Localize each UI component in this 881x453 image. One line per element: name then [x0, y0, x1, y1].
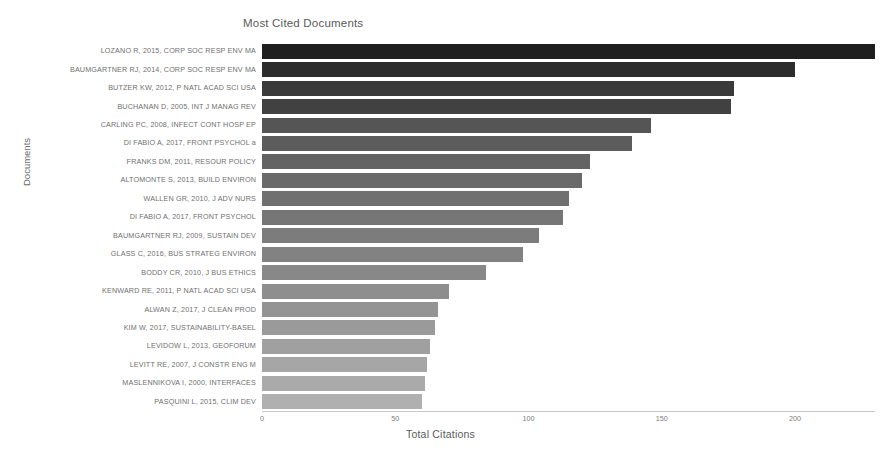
- bar-fill: [262, 394, 422, 409]
- bar[interactable]: [262, 302, 438, 317]
- y-tick-label: GLASS C, 2016, BUS STRATEG ENVIRON: [111, 249, 256, 258]
- bar[interactable]: [262, 173, 582, 188]
- x-axis-title: Total Citations: [0, 428, 881, 440]
- y-tick-label: PASQUINI L, 2015, CLIM DEV: [154, 397, 256, 406]
- bar-fill: [262, 302, 438, 317]
- y-tick-label: ALWAN Z, 2017, J CLEAN PROD: [145, 305, 257, 314]
- y-tick-label: KIM W, 2017, SUSTAINABILITY-BASEL: [124, 323, 256, 332]
- chart-title: Most Cited Documents: [243, 17, 363, 29]
- bar-fill: [262, 376, 425, 391]
- y-tick-label: MASLENNIKOVA I, 2000, INTERFACES: [122, 378, 256, 387]
- y-tick-label: BUTZER KW, 2012, P NATL ACAD SCI USA: [108, 83, 256, 92]
- y-tick-label: FRANKS DM, 2011, RESOUR POLICY: [127, 157, 256, 166]
- bar-fill: [262, 265, 486, 280]
- x-axis-line: [262, 411, 875, 412]
- bar[interactable]: [262, 81, 734, 96]
- bar[interactable]: [262, 44, 875, 59]
- y-tick-label: CARLING PC, 2008, INFECT CONT HOSP EP: [101, 120, 256, 129]
- bar[interactable]: [262, 394, 422, 409]
- y-tick-label: BAUMGARTNER RJ, 2009, SUSTAIN DEV: [113, 231, 256, 240]
- y-tick-label: BUCHANAN D, 2005, INT J MANAG REV: [117, 102, 256, 111]
- y-tick-label: BODDY CR, 2010, J BUS ETHICS: [141, 268, 256, 277]
- y-tick-label: BAUMGARTNER RJ, 2014, CORP SOC RESP ENV …: [70, 65, 256, 74]
- most-cited-documents-chart: Most Cited Documents Documents LOZANO R,…: [0, 0, 881, 453]
- bar[interactable]: [262, 99, 731, 114]
- bar-fill: [262, 284, 449, 299]
- bar-fill: [262, 320, 435, 335]
- bar-fill: [262, 228, 539, 243]
- bar-fill: [262, 173, 582, 188]
- y-axis-tick-labels: LOZANO R, 2015, CORP SOC RESP ENV MABAUM…: [0, 42, 256, 411]
- bar-fill: [262, 339, 430, 354]
- bar[interactable]: [262, 136, 632, 151]
- y-tick-label: LEVITT RE, 2007, J CONSTR ENG M: [130, 360, 256, 369]
- bar-fill: [262, 210, 563, 225]
- bar-fill: [262, 81, 734, 96]
- bar[interactable]: [262, 228, 539, 243]
- x-tick-label: 0: [260, 414, 264, 423]
- x-tick-label: 200: [789, 414, 801, 423]
- y-tick-label: LOZANO R, 2015, CORP SOC RESP ENV MA: [101, 46, 256, 55]
- y-tick-label: DI FABIO A, 2017, FRONT PSYCHOL a: [124, 138, 256, 147]
- y-tick-label: WALLEN GR, 2010, J ADV NURS: [144, 194, 256, 203]
- bar-fill: [262, 118, 651, 133]
- bar[interactable]: [262, 265, 486, 280]
- bar-fill: [262, 62, 795, 77]
- bar[interactable]: [262, 62, 795, 77]
- bar[interactable]: [262, 357, 427, 372]
- y-tick-label: LEVIDOW L, 2013, GEOFORUM: [147, 341, 256, 350]
- bar[interactable]: [262, 191, 569, 206]
- bar[interactable]: [262, 376, 425, 391]
- bar[interactable]: [262, 154, 590, 169]
- bar[interactable]: [262, 210, 563, 225]
- bar-fill: [262, 99, 731, 114]
- bar-fill: [262, 44, 875, 59]
- y-tick-label: DI FABIO A, 2017, FRONT PSYCHOL: [130, 212, 256, 221]
- bar-fill: [262, 357, 427, 372]
- bar-fill: [262, 191, 569, 206]
- bar-fill: [262, 136, 632, 151]
- bar[interactable]: [262, 118, 651, 133]
- y-tick-label: KENWARD RE, 2011, P NATL ACAD SCI USA: [102, 286, 256, 295]
- bar-fill: [262, 247, 523, 262]
- bar[interactable]: [262, 320, 435, 335]
- x-tick-label: 150: [656, 414, 668, 423]
- plot-area: [262, 42, 875, 411]
- bar[interactable]: [262, 339, 430, 354]
- x-tick-label: 100: [523, 414, 535, 423]
- bar-fill: [262, 154, 590, 169]
- x-tick-label: 50: [391, 414, 399, 423]
- bar[interactable]: [262, 284, 449, 299]
- bar[interactable]: [262, 247, 523, 262]
- y-tick-label: ALTOMONTE S, 2013, BUILD ENVIRON: [120, 175, 256, 184]
